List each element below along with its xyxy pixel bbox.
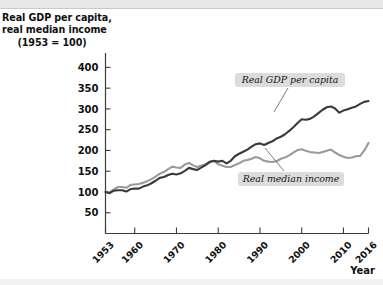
chart-figure: Real GDP per capita, real median income … bbox=[0, 0, 383, 285]
y-tick-label: 400 bbox=[78, 62, 99, 73]
x-tick-label: 1953 bbox=[90, 239, 116, 265]
y-tick-label: 300 bbox=[78, 104, 99, 115]
y-tick-label: 250 bbox=[78, 124, 99, 135]
callout-label-income: Real median income bbox=[242, 173, 340, 184]
x-tick-label: 2010 bbox=[328, 239, 354, 265]
x-tick-label: 1970 bbox=[161, 239, 187, 265]
x-tick-label: 1990 bbox=[244, 239, 270, 265]
y-tick-label: 350 bbox=[78, 83, 99, 94]
x-tick-label: 1980 bbox=[203, 239, 229, 265]
x-tick-label: 1960 bbox=[119, 239, 145, 265]
y-tick-label: 50 bbox=[85, 207, 99, 218]
x-tick-label: 2016 bbox=[353, 239, 379, 265]
callout-label-gdp: Real GDP per capita bbox=[241, 74, 339, 85]
chart-svg: 50100150200250300350400 1953196019701980… bbox=[0, 0, 383, 285]
x-axis-title: Year bbox=[349, 265, 375, 276]
x-tick-label: 2000 bbox=[286, 239, 312, 265]
y-tick-label: 150 bbox=[78, 166, 99, 177]
callout-leader-gdp bbox=[274, 88, 288, 112]
y-tick-label: 100 bbox=[78, 187, 99, 198]
y-tick-label: 200 bbox=[78, 145, 99, 156]
